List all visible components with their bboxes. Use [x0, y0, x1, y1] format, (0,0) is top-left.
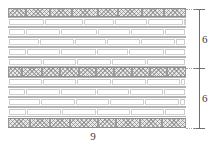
brick — [98, 29, 130, 35]
brick — [77, 59, 111, 65]
brick — [176, 39, 185, 45]
brick — [76, 99, 109, 105]
brick — [26, 29, 60, 35]
dimension-label-lower-height: 6 — [201, 92, 209, 105]
brick — [97, 49, 128, 55]
course-header-0 — [8, 8, 186, 17]
brick — [131, 109, 164, 115]
brick — [112, 79, 146, 85]
brick — [26, 9, 50, 16]
brick — [41, 99, 75, 105]
brick — [79, 68, 96, 76]
brick — [27, 109, 61, 115]
brick — [8, 9, 26, 16]
extension-line-top — [186, 9, 196, 10]
brick — [145, 99, 179, 105]
brick — [75, 39, 106, 45]
brick — [164, 9, 186, 16]
brick — [9, 19, 44, 25]
brick — [70, 119, 98, 127]
dimension-label-upper-height: 6 — [201, 33, 209, 46]
brick — [98, 9, 118, 16]
brick — [45, 19, 83, 25]
brick — [132, 68, 150, 76]
brick — [9, 49, 26, 55]
brick — [142, 9, 164, 16]
brick — [165, 49, 185, 55]
brick — [116, 119, 140, 127]
brick — [180, 99, 185, 105]
brick — [8, 119, 30, 127]
brick — [141, 39, 175, 45]
brick — [147, 79, 180, 85]
brick — [162, 119, 186, 127]
brick — [115, 19, 147, 25]
brick — [9, 89, 25, 95]
brick — [148, 19, 183, 25]
brick — [184, 19, 186, 25]
brick — [181, 79, 185, 85]
brick — [140, 119, 162, 127]
brick — [61, 29, 97, 35]
brick — [9, 29, 25, 35]
brick — [26, 89, 60, 95]
brick — [147, 59, 185, 65]
brick — [61, 49, 96, 55]
brick — [43, 59, 76, 65]
brick — [22, 68, 42, 76]
brick — [129, 49, 164, 55]
wall-elevation — [8, 8, 186, 128]
brick — [40, 39, 74, 45]
brick — [114, 68, 132, 76]
brick — [9, 39, 39, 45]
extension-line-middle — [186, 68, 196, 69]
course-stretcher-5 — [8, 57, 186, 67]
course-stretcher-8 — [8, 87, 186, 97]
brick — [97, 89, 129, 95]
course-stretcher-1 — [8, 17, 186, 27]
course-stretcher-2 — [8, 27, 186, 37]
course-stretcher-3 — [8, 37, 186, 47]
brick — [112, 59, 146, 65]
brick — [50, 9, 72, 16]
brick — [9, 109, 26, 115]
extension-line-bottom — [186, 128, 196, 129]
brick — [150, 68, 167, 76]
brick — [30, 119, 50, 127]
brick — [110, 99, 144, 105]
brick — [62, 109, 96, 115]
brick — [165, 109, 185, 115]
brick — [72, 9, 98, 16]
brick — [50, 119, 70, 127]
brick — [164, 89, 185, 95]
brick — [43, 79, 76, 85]
brick — [130, 89, 163, 95]
brick — [27, 49, 60, 55]
course-header-11 — [8, 118, 186, 128]
brick — [118, 9, 142, 16]
brick — [165, 29, 185, 35]
course-header-6 — [8, 67, 186, 77]
brick — [107, 39, 140, 45]
brick — [60, 68, 79, 76]
brick-wall-drawing: 6 6 9 — [0, 0, 213, 145]
course-stretcher-9 — [8, 97, 186, 107]
brick — [61, 89, 96, 95]
brick — [9, 79, 42, 85]
brick — [42, 68, 60, 76]
brick — [84, 19, 114, 25]
brick — [9, 59, 42, 65]
brick — [8, 68, 22, 76]
dimension-label-width: 9 — [0, 131, 186, 142]
brick — [77, 79, 111, 85]
brick — [98, 119, 116, 127]
brick — [131, 29, 164, 35]
brick — [9, 99, 40, 105]
course-stretcher-10 — [8, 107, 186, 117]
brick — [167, 68, 186, 76]
course-stretcher-7 — [8, 77, 186, 87]
brick — [97, 109, 130, 115]
brick — [96, 68, 114, 76]
course-stretcher-4 — [8, 47, 186, 57]
